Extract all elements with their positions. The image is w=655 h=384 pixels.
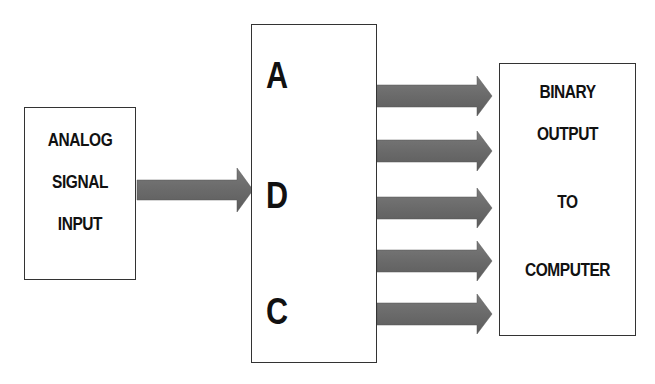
input-arrow-icon <box>137 168 253 212</box>
adc-letter-c: C <box>266 291 288 333</box>
adc-letter-d: D <box>266 175 288 217</box>
input-line-2: SIGNAL <box>33 172 128 193</box>
adc-box: A D C <box>251 24 377 363</box>
output-arrow-5-icon <box>377 294 492 334</box>
output-line-4: COMPUTER <box>509 260 625 281</box>
analog-signal-input-box: ANALOG SIGNAL INPUT <box>24 107 136 280</box>
output-line-1: BINARY <box>509 82 625 103</box>
input-line-3: INPUT <box>33 214 128 235</box>
binary-output-box: BINARY OUTPUT TO COMPUTER <box>499 63 636 336</box>
output-arrow-2-icon <box>377 131 492 171</box>
adc-letter-a: A <box>266 55 288 97</box>
output-line-2: OUTPUT <box>509 124 625 145</box>
output-line-3: TO <box>509 192 625 213</box>
output-arrow-3-icon <box>376 188 492 228</box>
input-line-1: ANALOG <box>33 130 128 151</box>
output-arrow-1-icon <box>376 76 492 116</box>
output-arrow-4-icon <box>377 241 492 281</box>
